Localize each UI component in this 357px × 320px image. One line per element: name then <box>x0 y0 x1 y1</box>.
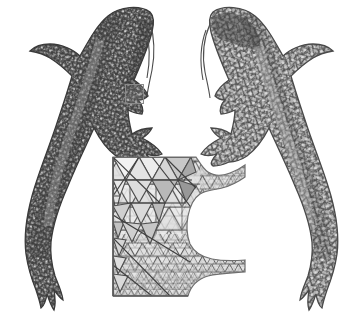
inset-mesh-body <box>110 154 250 300</box>
mesh-detail-inset <box>0 0 357 320</box>
figure-root: Dense triangulated surface mesh of a sal… <box>0 0 357 320</box>
